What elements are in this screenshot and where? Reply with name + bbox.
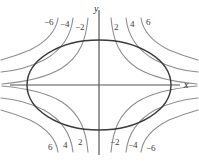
axes-group [10,10,180,155]
contour-label-bottom-left-6: 6 [48,143,53,152]
contour-label-top-right-2: 2 [114,23,119,32]
contour-plot-figure: x y −6 −4 −2 2 4 6 6 4 2 −2 −4 −6 [0,0,199,161]
contour-curve-2-upper-right [111,18,197,84]
contour-curve-2-lower-left [2,86,88,152]
contour-label-top-right-6: 6 [146,18,151,27]
contour-label-bottom-left-2: 2 [78,138,83,147]
y-axis-label: y [94,4,98,14]
contour-label-bottom-right-neg6: −6 [146,144,156,153]
x-axis-label: x [184,80,188,90]
plot-canvas [0,0,199,161]
contour-label-top-left-neg2: −2 [75,23,85,32]
contour-label-top-right-4: 4 [130,20,135,29]
contour-label-bottom-left-4: 4 [63,141,68,150]
contour-label-bottom-right-neg4: −4 [128,141,138,150]
contour-label-top-left-neg4: −4 [60,20,70,29]
contour-label-bottom-right-neg2: −2 [110,138,120,147]
contour-label-top-left-neg6: −6 [44,18,54,27]
